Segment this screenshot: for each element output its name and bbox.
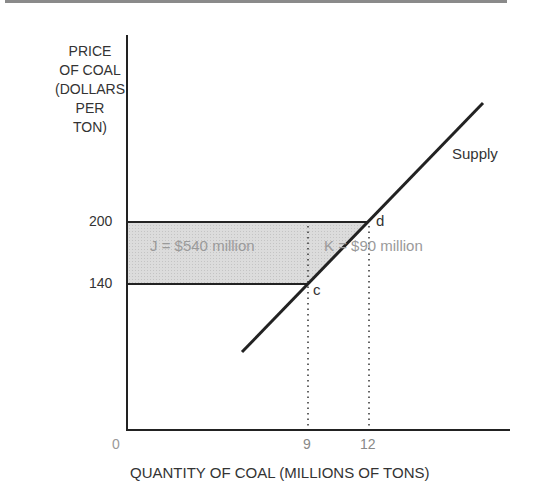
supply-label: Supply — [452, 145, 498, 162]
y-axis-label: PRICE OF COAL (DOLLARS PER TON) — [40, 42, 140, 137]
x-tick-9: 9 — [303, 436, 311, 452]
y-tick-140: 140 — [89, 275, 112, 291]
point-c-label: c — [313, 281, 321, 298]
y-label-line: TON) — [40, 118, 140, 137]
y-label-line: PRICE — [40, 42, 140, 61]
point-d-label: d — [376, 212, 384, 229]
y-label-line: OF COAL — [40, 61, 140, 80]
y-tick-200: 200 — [89, 213, 112, 229]
y-label-line: (DOLLARS — [40, 80, 140, 99]
annotation-k: K = $90 million — [324, 237, 423, 254]
y-label-line: PER — [40, 99, 140, 118]
x-tick-0: 0 — [112, 436, 120, 452]
x-axis-label: QUANTITY OF COAL (MILLIONS OF TONS) — [130, 464, 430, 481]
annotation-j: J = $540 million — [150, 237, 255, 254]
x-tick-12: 12 — [360, 436, 376, 452]
